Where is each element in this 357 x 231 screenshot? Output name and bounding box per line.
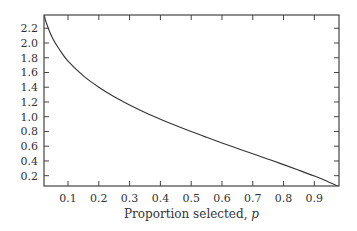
- y-tick-label: 1.6: [21, 66, 39, 79]
- data-line: [43, 12, 339, 187]
- y-tick-label: 1.8: [21, 52, 39, 65]
- x-tick-label: 0.1: [59, 192, 77, 205]
- y-tick-label: 0.8: [21, 125, 39, 138]
- x-tick-label: 0.8: [275, 192, 293, 205]
- y-tick-label: 2.0: [21, 37, 39, 50]
- x-tick-label: 0.9: [306, 192, 324, 205]
- x-tick-label: 0.3: [121, 192, 139, 205]
- y-tick-label: 1.0: [21, 111, 39, 124]
- x-tick-label: 0.4: [152, 192, 170, 205]
- y-axis: 0.20.40.60.81.01.21.41.61.82.02.2: [21, 22, 340, 182]
- x-axis: 0.10.20.30.40.50.60.70.80.9: [59, 15, 323, 205]
- x-tick-label: 0.2: [90, 192, 108, 205]
- y-tick-label: 0.2: [21, 170, 39, 183]
- y-tick-label: 0.6: [21, 140, 39, 153]
- y-tick-label: 1.4: [21, 81, 39, 94]
- plot-frame: [44, 15, 339, 186]
- x-tick-label: 0.7: [244, 192, 262, 205]
- y-tick-label: 1.2: [21, 96, 39, 109]
- x-tick-label: 0.6: [213, 192, 231, 205]
- y-tick-label: 2.2: [21, 22, 39, 35]
- x-tick-label: 0.5: [182, 192, 200, 205]
- x-axis-label: Proportion selected, p: [124, 207, 259, 221]
- selection-intensity-chart: 0.20.40.60.81.01.21.41.61.82.02.2 0.10.2…: [0, 0, 357, 231]
- y-tick-label: 0.4: [21, 155, 39, 168]
